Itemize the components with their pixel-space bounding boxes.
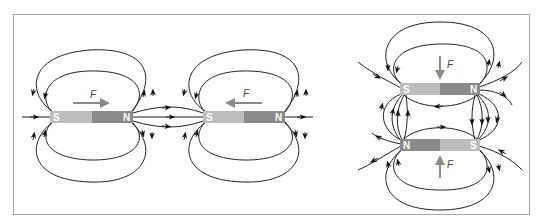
magnet-1-force-label: F — [90, 89, 97, 100]
magnet-4-force-label: F — [447, 159, 454, 170]
magnet-1: S N F — [50, 89, 133, 123]
magnet-field-diagram: S N F S N F — [0, 0, 545, 224]
magnet-2-force-label: F — [243, 88, 250, 99]
magnet-3-left-pole-label: S — [403, 84, 410, 95]
magnet-1-left-pole-label: S — [53, 112, 60, 123]
magnet-3-force-label: F — [447, 59, 454, 70]
field-lines-stacked-pair — [358, 22, 522, 210]
magnet-4: N S F — [400, 139, 480, 178]
magnet-3-right-pole-label: N — [470, 84, 477, 95]
magnet-2-right-pole-label: N — [275, 112, 282, 123]
magnet-2-left-pole-label: S — [206, 112, 213, 123]
field-lines-between-horizontal — [133, 107, 203, 127]
magnet-3: S N F — [400, 56, 480, 95]
magnet-2: S N F — [203, 88, 285, 123]
magnet-4-left-pole-label: N — [403, 140, 410, 151]
magnet-4-right-pole-label: S — [470, 140, 477, 151]
magnet-1-right-pole-label: N — [123, 112, 130, 123]
